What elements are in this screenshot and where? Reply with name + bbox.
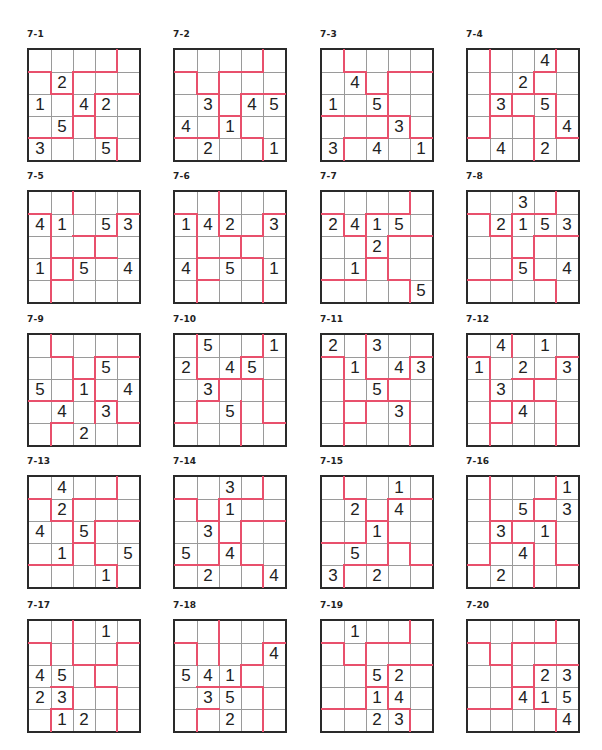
empty-cell[interactable] (73, 236, 95, 258)
empty-cell[interactable] (51, 94, 73, 116)
empty-cell[interactable] (117, 665, 139, 687)
empty-cell[interactable] (512, 643, 534, 665)
empty-cell[interactable] (29, 280, 51, 302)
empty-cell[interactable] (468, 499, 490, 521)
empty-cell[interactable] (468, 258, 490, 280)
empty-cell[interactable] (556, 335, 578, 357)
empty-cell[interactable] (219, 50, 241, 72)
empty-cell[interactable] (490, 192, 512, 214)
clue-cell[interactable]: 5 (95, 214, 117, 236)
empty-cell[interactable] (534, 258, 556, 280)
empty-cell[interactable] (556, 50, 578, 72)
empty-cell[interactable] (95, 665, 117, 687)
empty-cell[interactable] (344, 423, 366, 445)
empty-cell[interactable] (322, 357, 344, 379)
clue-cell[interactable]: 5 (556, 687, 578, 709)
empty-cell[interactable] (366, 116, 388, 138)
empty-cell[interactable] (322, 477, 344, 499)
empty-cell[interactable] (556, 401, 578, 423)
empty-cell[interactable] (344, 687, 366, 709)
empty-cell[interactable] (117, 521, 139, 543)
empty-cell[interactable] (556, 280, 578, 302)
clue-cell[interactable]: 2 (322, 214, 344, 236)
empty-cell[interactable] (29, 335, 51, 357)
empty-cell[interactable] (344, 335, 366, 357)
clue-cell[interactable]: 5 (512, 499, 534, 521)
empty-cell[interactable] (468, 236, 490, 258)
clue-cell[interactable]: 3 (388, 401, 410, 423)
empty-cell[interactable] (322, 72, 344, 94)
empty-cell[interactable] (263, 499, 285, 521)
empty-cell[interactable] (219, 192, 241, 214)
empty-cell[interactable] (175, 643, 197, 665)
empty-cell[interactable] (117, 116, 139, 138)
empty-cell[interactable] (51, 258, 73, 280)
clue-cell[interactable]: 4 (490, 138, 512, 160)
empty-cell[interactable] (388, 335, 410, 357)
empty-cell[interactable] (468, 687, 490, 709)
empty-cell[interactable] (410, 709, 432, 731)
empty-cell[interactable] (344, 50, 366, 72)
empty-cell[interactable] (117, 423, 139, 445)
empty-cell[interactable] (175, 72, 197, 94)
empty-cell[interactable] (263, 379, 285, 401)
clue-cell[interactable]: 2 (175, 357, 197, 379)
clue-cell[interactable]: 5 (95, 357, 117, 379)
empty-cell[interactable] (29, 621, 51, 643)
empty-cell[interactable] (322, 423, 344, 445)
clue-cell[interactable]: 4 (490, 335, 512, 357)
empty-cell[interactable] (29, 565, 51, 587)
empty-cell[interactable] (512, 665, 534, 687)
empty-cell[interactable] (410, 258, 432, 280)
empty-cell[interactable] (73, 357, 95, 379)
clue-cell[interactable]: 2 (344, 499, 366, 521)
empty-cell[interactable] (512, 94, 534, 116)
empty-cell[interactable] (534, 379, 556, 401)
empty-cell[interactable] (263, 477, 285, 499)
empty-cell[interactable] (175, 423, 197, 445)
empty-cell[interactable] (388, 72, 410, 94)
empty-cell[interactable] (534, 543, 556, 565)
empty-cell[interactable] (219, 138, 241, 160)
clue-cell[interactable]: 1 (219, 499, 241, 521)
clue-cell[interactable]: 3 (197, 521, 219, 543)
empty-cell[interactable] (410, 116, 432, 138)
clue-cell[interactable]: 3 (410, 357, 432, 379)
empty-cell[interactable] (410, 50, 432, 72)
clue-cell[interactable]: 1 (95, 565, 117, 587)
empty-cell[interactable] (322, 665, 344, 687)
empty-cell[interactable] (534, 499, 556, 521)
empty-cell[interactable] (556, 379, 578, 401)
empty-cell[interactable] (468, 379, 490, 401)
clue-cell[interactable]: 1 (388, 477, 410, 499)
empty-cell[interactable] (51, 621, 73, 643)
empty-cell[interactable] (534, 709, 556, 731)
clue-cell[interactable]: 3 (29, 138, 51, 160)
empty-cell[interactable] (29, 401, 51, 423)
empty-cell[interactable] (490, 621, 512, 643)
empty-cell[interactable] (490, 357, 512, 379)
clue-cell[interactable]: 1 (322, 94, 344, 116)
empty-cell[interactable] (322, 709, 344, 731)
clue-cell[interactable]: 4 (512, 687, 534, 709)
empty-cell[interactable] (117, 192, 139, 214)
empty-cell[interactable] (468, 709, 490, 731)
empty-cell[interactable] (51, 138, 73, 160)
empty-cell[interactable] (490, 236, 512, 258)
empty-cell[interactable] (468, 280, 490, 302)
empty-cell[interactable] (95, 335, 117, 357)
empty-cell[interactable] (197, 116, 219, 138)
empty-cell[interactable] (468, 94, 490, 116)
clue-cell[interactable]: 4 (556, 116, 578, 138)
empty-cell[interactable] (322, 379, 344, 401)
empty-cell[interactable] (117, 565, 139, 587)
clue-cell[interactable]: 2 (534, 138, 556, 160)
clue-cell[interactable]: 2 (366, 709, 388, 731)
empty-cell[interactable] (241, 138, 263, 160)
clue-cell[interactable]: 3 (556, 214, 578, 236)
clue-cell[interactable]: 2 (29, 687, 51, 709)
empty-cell[interactable] (322, 50, 344, 72)
clue-cell[interactable]: 2 (51, 499, 73, 521)
empty-cell[interactable] (322, 521, 344, 543)
clue-cell[interactable]: 5 (388, 214, 410, 236)
